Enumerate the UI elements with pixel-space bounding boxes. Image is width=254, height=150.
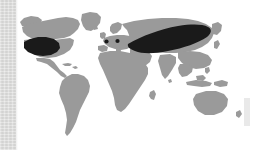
land-kamchatka [212, 22, 222, 35]
land-caribbean [62, 63, 72, 66]
land-india [158, 54, 176, 79]
land-philippines [205, 67, 210, 74]
land-borneo [196, 75, 206, 81]
land-new-zealand [236, 110, 242, 118]
land-indonesia [186, 80, 212, 87]
land-scandinavia [110, 22, 122, 34]
land-africa [98, 51, 148, 112]
highlight-point-western-europe-1 [104, 40, 108, 44]
highlight-point-western-europe-2 [115, 39, 119, 43]
land-hispaniola [72, 66, 78, 69]
land-iberia [98, 45, 108, 52]
land-sri-lanka [168, 79, 172, 83]
world-map-svg [0, 0, 254, 150]
land-south-america [59, 74, 90, 136]
page-edge-artifact [244, 98, 250, 126]
highlight-region-north-america [24, 37, 60, 56]
land-japan [214, 40, 220, 49]
land-southeast-asia [178, 64, 193, 77]
land-madagascar [149, 90, 156, 100]
land-greenland [81, 12, 101, 31]
world-map-figure [0, 0, 254, 150]
land-australia [193, 91, 228, 115]
land-new-guinea [214, 80, 228, 87]
land-mexico-central-america [36, 58, 67, 78]
